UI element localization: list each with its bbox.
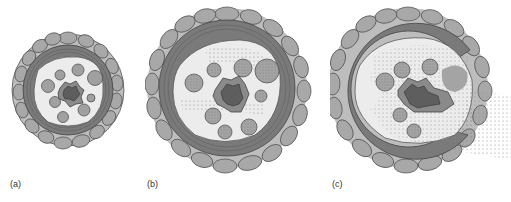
cross-section-diagram-b [145,0,315,190]
panel-label-a: (a) [10,179,21,189]
cross-section-diagram-c [330,0,511,190]
panel-c: (c) [330,0,511,190]
panel-label-b: (b) [147,179,158,189]
panel-b: (b) [145,0,315,190]
cropped-caption-remnant [0,194,511,200]
cross-section-diagram-a [8,0,128,175]
panel-a: (a) [8,0,128,175]
panel-label-c: (c) [332,179,343,189]
